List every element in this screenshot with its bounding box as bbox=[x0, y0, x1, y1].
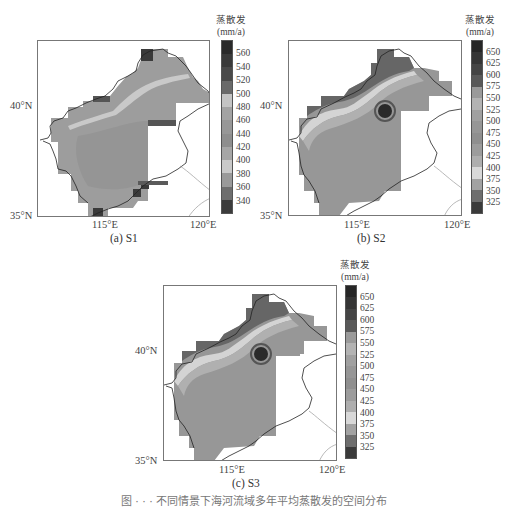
colorbar-segment bbox=[346, 309, 356, 320]
colorbar-segment bbox=[222, 160, 232, 173]
colorbar-tick-label: 475 bbox=[360, 373, 374, 383]
colorbar-tick-label: 440 bbox=[236, 129, 250, 139]
colorbar-segment bbox=[222, 120, 232, 133]
colorbar-tick-label: 600 bbox=[486, 70, 500, 80]
colorbar-segment bbox=[346, 366, 356, 377]
colorbar-tick-label: 325 bbox=[486, 197, 500, 207]
colorbar-title-line2: (mm/a) bbox=[335, 271, 375, 283]
colorbar-tick-label: 325 bbox=[360, 442, 374, 452]
map-frame-c bbox=[163, 285, 337, 461]
colorbar-segment bbox=[222, 187, 232, 200]
colorbar-tick-label: 650 bbox=[360, 292, 374, 302]
colorbar-tick-label: 550 bbox=[486, 93, 500, 103]
colorbar-segment bbox=[472, 144, 482, 155]
colorbar-tick-label: 575 bbox=[486, 81, 500, 91]
bohai-gap bbox=[300, 354, 337, 436]
colorbar-tick-label: 540 bbox=[236, 62, 250, 72]
colorbar-segment bbox=[222, 54, 232, 67]
colorbar-segment bbox=[222, 134, 232, 147]
colorbar-tick-label: 420 bbox=[236, 142, 250, 152]
colorbar-tick-label: 460 bbox=[236, 115, 250, 125]
colorbar-tick-label: 400 bbox=[360, 408, 374, 418]
panel-caption-a: (a) S1 bbox=[110, 232, 138, 244]
colorbar-segment bbox=[346, 401, 356, 412]
colorbar-tick-label: 480 bbox=[236, 102, 250, 112]
colorbar-segment bbox=[222, 173, 232, 186]
y-tick-40n-a: 40°N bbox=[10, 100, 32, 111]
map-frame-a bbox=[37, 40, 210, 217]
x-tick-115e-a: 115°E bbox=[92, 219, 118, 230]
y-tick-35n-a: 35°N bbox=[10, 210, 32, 221]
colorbar-title-a: 蒸散发 (mm/a) bbox=[211, 14, 251, 38]
colorbar-a bbox=[221, 40, 233, 214]
basin-map-b bbox=[289, 41, 462, 216]
colorbar-segment bbox=[346, 435, 356, 446]
colorbar-tick-label: 375 bbox=[486, 174, 500, 184]
hotspot bbox=[378, 104, 392, 118]
colorbar-tick-label: 425 bbox=[486, 151, 500, 161]
colorbar-segment bbox=[346, 389, 356, 400]
colorbar-title-line1: 蒸散发 bbox=[460, 14, 500, 26]
colorbar-title-line2: (mm/a) bbox=[460, 26, 500, 38]
colorbar-segment bbox=[346, 286, 356, 297]
colorbar-segment bbox=[346, 343, 356, 354]
colorbar-tick-label: 575 bbox=[360, 326, 374, 336]
colorbar-segment bbox=[472, 110, 482, 121]
colorbar-tick-label: 500 bbox=[486, 116, 500, 126]
colorbar-tick-label: 520 bbox=[236, 75, 250, 85]
colorbar-b bbox=[471, 40, 483, 214]
colorbar-segment bbox=[346, 332, 356, 343]
map-frame-b bbox=[288, 40, 462, 216]
colorbar-tick-label: 360 bbox=[236, 182, 250, 192]
colorbar-segment bbox=[472, 41, 482, 52]
coastline-2 bbox=[319, 444, 337, 461]
colorbar-segment bbox=[222, 81, 232, 94]
colorbar-segment bbox=[472, 121, 482, 132]
coastline-2 bbox=[444, 199, 462, 216]
colorbar-segment bbox=[472, 75, 482, 86]
colorbar-segment bbox=[222, 67, 232, 80]
y-tick-35n-b: 35°N bbox=[260, 210, 282, 221]
colorbar-segment bbox=[346, 297, 356, 308]
colorbar-segment bbox=[472, 190, 482, 201]
colorbar-segment bbox=[472, 87, 482, 98]
colorbar-tick-label: 425 bbox=[360, 396, 374, 406]
colorbar-tick-label: 500 bbox=[236, 89, 250, 99]
colorbar-tick-label: 600 bbox=[360, 315, 374, 325]
colorbar-tick-label: 500 bbox=[360, 361, 374, 371]
x-tick-115e-b: 115°E bbox=[344, 219, 370, 230]
colorbar-segment bbox=[222, 147, 232, 160]
x-tick-120e-c: 120°E bbox=[319, 464, 345, 475]
colorbar-segment bbox=[346, 378, 356, 389]
colorbar-tick-label: 400 bbox=[236, 155, 250, 165]
colorbar-tick-label: 475 bbox=[486, 128, 500, 138]
colorbar-segment bbox=[472, 98, 482, 109]
colorbar-title-b: 蒸散发 (mm/a) bbox=[460, 14, 500, 38]
x-tick-120e-b: 120°E bbox=[444, 219, 470, 230]
colorbar-tick-label: 550 bbox=[360, 338, 374, 348]
colorbar-segment bbox=[346, 424, 356, 435]
colorbar-segment bbox=[346, 412, 356, 423]
figure-caption: 图 · · · 不同情景下海河流域多年平均蒸散发的空间分布 bbox=[0, 492, 508, 508]
colorbar-tick-label: 400 bbox=[486, 163, 500, 173]
colorbar-tick-label: 525 bbox=[486, 105, 500, 115]
colorbar-tick-label: 340 bbox=[236, 196, 250, 206]
x-tick-120e-a: 120°E bbox=[190, 219, 216, 230]
colorbar-title-line1: 蒸散发 bbox=[335, 259, 375, 271]
colorbar-segment bbox=[472, 167, 482, 178]
colorbar-tick-label: 560 bbox=[236, 48, 250, 58]
colorbar-tick-label: 450 bbox=[486, 139, 500, 149]
y-tick-35n-c: 35°N bbox=[135, 455, 157, 466]
colorbar-tick-label: 375 bbox=[360, 419, 374, 429]
colorbar-segment bbox=[472, 52, 482, 63]
colorbar-segment bbox=[222, 107, 232, 120]
colorbar-segment bbox=[222, 94, 232, 107]
basin-map-a bbox=[38, 41, 210, 217]
colorbar-title-line1: 蒸散发 bbox=[211, 14, 251, 26]
colorbar-segment bbox=[472, 156, 482, 167]
colorbar-tick-label: 380 bbox=[236, 169, 250, 179]
colorbar-tick-label: 650 bbox=[486, 47, 500, 57]
y-tick-40n-c: 40°N bbox=[135, 345, 157, 356]
colorbar-segment bbox=[346, 355, 356, 366]
bohai-gap bbox=[425, 111, 462, 191]
